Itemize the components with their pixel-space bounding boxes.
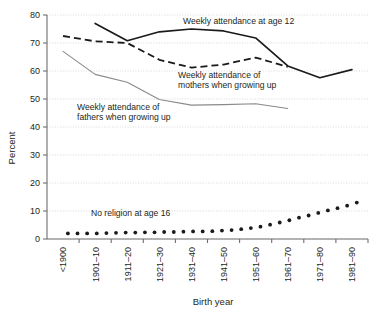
data-point-marker: [230, 228, 234, 232]
annot-noreligion-label: No religion at age 16: [91, 208, 171, 218]
data-point-marker: [336, 206, 340, 210]
y-tick-label: 50: [30, 94, 40, 104]
data-point-marker: [326, 209, 330, 213]
x-tick-label: 1971–80: [315, 247, 325, 282]
data-point-marker: [162, 230, 166, 234]
x-tick-label: 1931–40: [187, 247, 197, 282]
x-axis-title: Birth year: [193, 296, 234, 307]
x-axis-ticks-group: <19001901–101911–201921–301931–401941–50…: [58, 239, 368, 282]
y-tick-label: 40: [30, 122, 40, 132]
annot-mothers-label: Weekly attendance ofmothers when growing…: [178, 70, 277, 90]
chart-svg: 01020304050607080 <19001901–101911–20192…: [0, 0, 385, 312]
y-axis-ticks-group: 01020304050607080: [30, 10, 47, 244]
data-point-marker: [85, 232, 89, 236]
y-tick-label: 10: [30, 206, 40, 216]
series-no-religion-dots: [66, 201, 359, 236]
data-point-marker: [278, 221, 282, 225]
data-point-marker: [114, 231, 118, 235]
x-tick-label: 1901–10: [91, 247, 101, 282]
x-tick-label: 1961–70: [283, 247, 293, 282]
data-point-marker: [307, 214, 311, 218]
data-point-marker: [191, 230, 195, 234]
x-tick-label: <1900: [58, 247, 68, 272]
series-mothers-line: [63, 36, 288, 68]
gridlines-group: [47, 15, 368, 239]
data-point-marker: [220, 229, 224, 233]
data-point-marker: [66, 232, 70, 236]
data-point-marker: [210, 229, 214, 233]
y-tick-label: 60: [30, 66, 40, 76]
x-tick-label: 1951–60: [251, 247, 261, 282]
data-point-marker: [239, 227, 243, 231]
x-tick-label: 1921–30: [155, 247, 165, 282]
y-axis-title: Percent: [6, 131, 17, 164]
data-point-marker: [287, 218, 291, 222]
data-point-marker: [172, 230, 176, 234]
annot-age12-label: Weekly attendance at age 12: [183, 16, 294, 26]
data-point-marker: [104, 231, 108, 235]
annot-fathers-label: Weekly attendance offathers when growing…: [77, 102, 171, 122]
data-point-marker: [355, 201, 359, 205]
data-point-marker: [345, 204, 349, 208]
data-point-marker: [201, 230, 205, 234]
data-point-marker: [153, 230, 157, 234]
data-point-marker: [124, 231, 128, 235]
data-point-marker: [143, 230, 147, 234]
y-tick-label: 70: [30, 38, 40, 48]
data-point-marker: [249, 226, 253, 230]
x-tick-label: 1911–20: [123, 247, 133, 281]
data-point-marker: [268, 223, 272, 227]
y-tick-label: 0: [35, 234, 40, 244]
y-tick-label: 30: [30, 150, 40, 160]
chart-container: 01020304050607080 <19001901–101911–20192…: [0, 0, 385, 312]
data-point-marker: [182, 230, 186, 234]
data-point-marker: [95, 232, 99, 236]
data-point-marker: [316, 211, 320, 215]
x-tick-label: 1981–90: [347, 247, 357, 282]
data-point-marker: [297, 216, 301, 220]
y-tick-label: 80: [30, 10, 40, 20]
data-point-marker: [76, 232, 80, 236]
y-tick-label: 20: [30, 178, 40, 188]
x-tick-label: 1941–50: [219, 247, 229, 282]
data-point-marker: [259, 225, 263, 229]
data-point-marker: [133, 231, 137, 235]
